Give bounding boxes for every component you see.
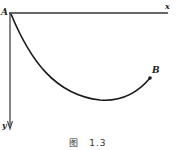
x-axis-label: x — [165, 2, 170, 11]
diagram-canvas — [0, 0, 176, 150]
y-axis-label: y — [2, 121, 7, 130]
y-axis — [8, 13, 13, 129]
caption-number: 1.3 — [89, 138, 106, 148]
point-b-label: B — [152, 66, 160, 75]
figure: A x B y 图 1.3 — [0, 0, 176, 150]
point-b-marker — [148, 76, 152, 80]
point-a-label: A — [1, 8, 8, 17]
curve-a-to-b — [11, 14, 150, 100]
figure-caption: 图 1.3 — [0, 136, 176, 149]
caption-prefix: 图 — [69, 138, 79, 148]
